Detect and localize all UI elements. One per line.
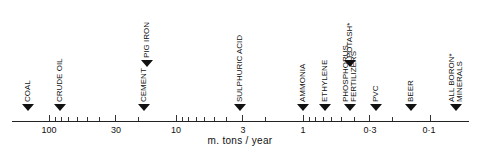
minor-tick xyxy=(55,117,56,121)
tick-label: 1 xyxy=(300,125,305,135)
marker-label: BEER xyxy=(407,80,415,102)
tick-label: 0·3 xyxy=(363,125,376,135)
major-tick xyxy=(176,115,177,121)
minor-tick xyxy=(354,117,355,121)
minor-tick xyxy=(331,117,332,121)
major-tick xyxy=(369,115,370,121)
triangle-marker-icon xyxy=(405,104,417,111)
major-tick xyxy=(242,115,243,121)
minor-tick xyxy=(188,117,189,121)
minor-tick xyxy=(61,117,62,121)
minor-tick xyxy=(68,117,69,121)
major-tick xyxy=(430,115,431,121)
triangle-marker-icon xyxy=(370,104,382,111)
tick-label: 100 xyxy=(41,125,56,135)
triangle-marker-icon xyxy=(138,104,150,111)
minor-tick xyxy=(77,117,78,121)
marker-label: POTASH* xyxy=(346,23,354,58)
minor-tick xyxy=(182,117,183,121)
major-tick xyxy=(115,115,116,121)
marker-label: CRUDE OIL xyxy=(56,58,64,102)
tick-label: 30 xyxy=(111,125,121,135)
major-tick xyxy=(49,115,50,121)
minor-tick xyxy=(341,117,342,121)
marker-label: AMMONIA xyxy=(299,64,307,102)
minor-tick xyxy=(226,117,227,121)
triangle-marker-icon xyxy=(297,104,309,111)
marker-label: ALL BORON* MINERALS xyxy=(448,53,464,102)
tick-label: 0·1 xyxy=(422,125,435,135)
x-axis-title: m. tons / year xyxy=(208,135,273,146)
minor-tick xyxy=(99,117,100,121)
triangle-marker-icon xyxy=(344,104,356,111)
marker-label: ETHYLENE xyxy=(321,60,329,102)
production-scale-chart: 1003010310·30·1 m. tons / year COALCRUDE… xyxy=(0,0,477,151)
x-axis-line xyxy=(12,121,469,122)
minor-tick xyxy=(138,117,139,121)
triangle-marker-icon xyxy=(54,104,66,111)
triangle-marker-icon xyxy=(319,104,331,111)
minor-tick xyxy=(323,117,324,121)
minor-tick xyxy=(309,117,310,121)
minor-tick xyxy=(87,117,88,121)
marker-label: SULPHURIC ACID xyxy=(236,35,244,102)
marker-label: PIG IRON xyxy=(143,22,151,58)
marker-label: PVC xyxy=(372,86,380,102)
triangle-marker-icon xyxy=(141,60,153,67)
minor-tick xyxy=(392,117,393,121)
minor-tick xyxy=(196,117,197,121)
minor-tick xyxy=(315,117,316,121)
marker-label: CEMENT xyxy=(140,68,148,102)
minor-tick xyxy=(265,117,266,121)
triangle-marker-icon xyxy=(344,60,356,67)
marker-label: COAL xyxy=(24,80,32,102)
triangle-marker-icon xyxy=(450,104,462,111)
triangle-marker-icon xyxy=(22,104,34,111)
minor-tick xyxy=(214,117,215,121)
tick-label: 3 xyxy=(240,125,245,135)
minor-tick xyxy=(204,117,205,121)
triangle-marker-icon xyxy=(234,104,246,111)
major-tick xyxy=(303,115,304,121)
tick-label: 10 xyxy=(171,125,181,135)
